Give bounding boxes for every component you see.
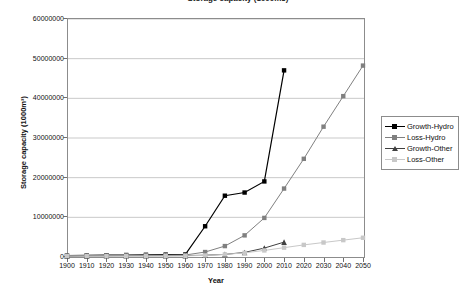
x-tick-mark — [284, 258, 285, 262]
x-tick-mark — [146, 258, 147, 262]
x-tick-label: 2040 — [335, 262, 351, 269]
x-tick-label: 2000 — [257, 262, 273, 269]
x-tick-label: 1940 — [138, 262, 154, 269]
x-tick-mark — [87, 258, 88, 262]
legend-item-label: Growth-Hydro — [405, 122, 454, 131]
chart-legend: Growth-HydroLoss-HydroGrowth-OtherLoss-O… — [381, 116, 459, 170]
x-tick-mark — [225, 258, 226, 262]
x-tick-mark — [304, 258, 305, 262]
legend-key-icon — [385, 121, 405, 132]
x-tick-label: 1970 — [197, 262, 213, 269]
x-tick-mark — [264, 258, 265, 262]
legend-item-growth-other[interactable]: Growth-Other — [385, 143, 454, 154]
x-tick-mark — [126, 258, 127, 262]
legend-item-loss-hydro[interactable]: Loss-Hydro — [385, 132, 454, 143]
legend-item-loss-other[interactable]: Loss-Other — [385, 154, 454, 165]
legend-item-label: Loss-Hydro — [405, 133, 445, 142]
x-tick-label: 1990 — [237, 262, 253, 269]
x-tick-label: 2010 — [276, 262, 292, 269]
x-tick-label: 1930 — [118, 262, 134, 269]
legend-item-growth-hydro[interactable]: Growth-Hydro — [385, 121, 454, 132]
legend-item-label: Growth-Other — [405, 144, 452, 153]
legend-item-label: Loss-Other — [405, 155, 444, 164]
x-tick-label: 1960 — [178, 262, 194, 269]
x-tick-mark — [67, 258, 68, 262]
x-tick-label: 1900 — [59, 262, 75, 269]
x-tick-label: 1950 — [158, 262, 174, 269]
x-tick-mark — [324, 258, 325, 262]
x-tick-label: 2050 — [355, 262, 371, 269]
x-tick-mark — [166, 258, 167, 262]
x-tick-label: 2020 — [296, 262, 312, 269]
x-axis-title: Year — [67, 276, 365, 285]
legend-key-icon — [385, 132, 405, 143]
x-tick-label: 2030 — [316, 262, 332, 269]
legend-key-icon — [385, 154, 405, 165]
chart-container: Storage capacity (1000m3) 01000000020000… — [0, 0, 476, 299]
x-tick-mark — [343, 258, 344, 262]
y-axis-title: Storage capacity (1000m³) — [19, 83, 28, 203]
x-tick-mark — [245, 258, 246, 262]
x-tick-mark — [363, 258, 364, 262]
x-tick-mark — [205, 258, 206, 262]
x-tick-mark — [106, 258, 107, 262]
legend-key-icon — [385, 143, 405, 154]
x-tick-mark — [185, 258, 186, 262]
x-tick-label: 1920 — [99, 262, 115, 269]
x-tick-label: 1910 — [79, 262, 95, 269]
x-tick-label: 1980 — [217, 262, 233, 269]
